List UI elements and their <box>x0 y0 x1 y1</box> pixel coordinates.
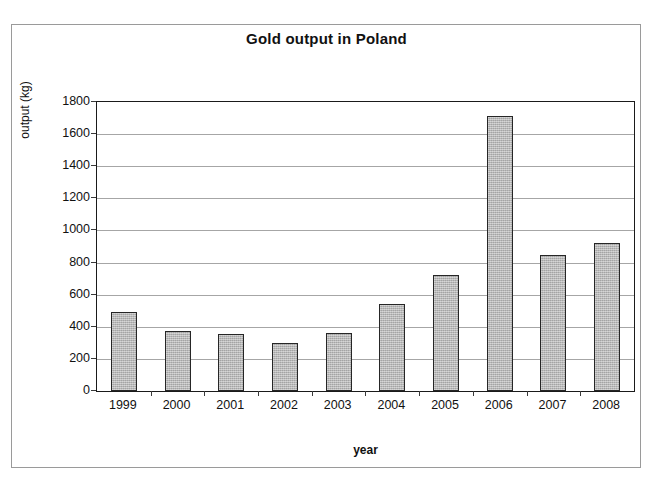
bar-2008[interactable] <box>594 243 620 391</box>
y-tick-label: 0 <box>44 383 90 397</box>
y-tick-label: 800 <box>44 255 90 269</box>
y-tick-label: 600 <box>44 287 90 301</box>
y-tick-label: 1400 <box>44 158 90 172</box>
x-tick-mark <box>204 391 205 396</box>
x-tick-label: 2001 <box>203 398 257 412</box>
y-tick-label: 1800 <box>44 94 90 108</box>
plot-area <box>96 101 635 392</box>
bar-1999[interactable] <box>111 312 137 391</box>
x-tick-label: 2007 <box>526 398 580 412</box>
bar-slot <box>151 102 205 391</box>
x-tick-label: 2005 <box>418 398 472 412</box>
bar-2003[interactable] <box>326 333 352 391</box>
x-tick-label: 2002 <box>257 398 311 412</box>
x-axis-tick-labels: 1999200020012002200320042005200620072008 <box>96 398 635 418</box>
x-tick-label: 2006 <box>472 398 526 412</box>
x-tick-mark <box>258 391 259 396</box>
y-axis-tick-labels: 020040060080010001200140016001800 <box>40 101 90 392</box>
y-axis-title: output (kg) <box>18 40 32 180</box>
x-tick-mark <box>312 391 313 396</box>
x-tick-mark <box>365 391 366 396</box>
y-tick-label: 1600 <box>44 126 90 140</box>
y-tick-label: 1200 <box>44 190 90 204</box>
x-tick-label: 2008 <box>579 398 633 412</box>
bar-slot <box>204 102 258 391</box>
bar-slot <box>312 102 366 391</box>
bar-slot <box>366 102 420 391</box>
bar-slot <box>527 102 581 391</box>
x-tick-label: 2004 <box>365 398 419 412</box>
x-axis-title: year <box>96 443 635 457</box>
x-tick-mark <box>419 391 420 396</box>
y-tick-label: 200 <box>44 351 90 365</box>
bar-2007[interactable] <box>540 255 566 391</box>
x-tick-mark <box>151 391 152 396</box>
x-tick-label: 1999 <box>96 398 150 412</box>
bar-slot <box>419 102 473 391</box>
y-tick-label: 1000 <box>44 222 90 236</box>
x-tick-mark <box>473 391 474 396</box>
bar-slot <box>473 102 527 391</box>
bar-2002[interactable] <box>272 343 298 391</box>
bar-2000[interactable] <box>165 331 191 391</box>
x-tick-mark <box>580 391 581 396</box>
bar-2004[interactable] <box>379 304 405 391</box>
x-tick-label: 2003 <box>311 398 365 412</box>
bar-slot <box>580 102 634 391</box>
x-tick-label: 2000 <box>150 398 204 412</box>
bar-2001[interactable] <box>218 334 244 391</box>
bar-slot <box>97 102 151 391</box>
bar-2005[interactable] <box>433 275 459 391</box>
x-tick-mark <box>527 391 528 396</box>
bar-2006[interactable] <box>487 116 513 391</box>
bar-slot <box>258 102 312 391</box>
chart-title: Gold output in Poland <box>0 30 653 47</box>
y-tick-label: 400 <box>44 319 90 333</box>
